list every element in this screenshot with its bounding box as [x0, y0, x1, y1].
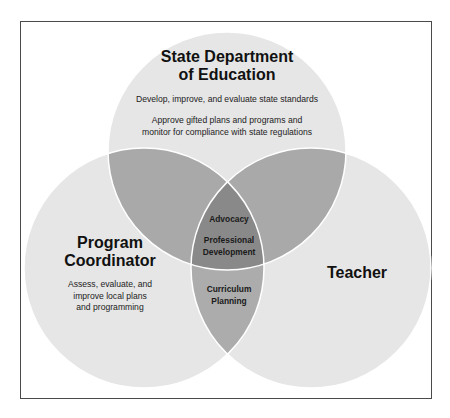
prof-dev-line1: Professional	[203, 235, 256, 247]
overlap-advocacy: Advocacy	[209, 214, 249, 226]
coordinator-title-line2: Coordinator	[64, 252, 156, 270]
curriculum-line1: Curriculum	[207, 284, 252, 296]
state-department-title: State Department of Education	[161, 48, 293, 84]
prof-dev-line2: Development	[203, 247, 256, 259]
overlap-curriculum-planning: Curriculum Planning	[207, 284, 252, 307]
state-item-approve-line1: Approve gifted plans and programs and	[142, 115, 312, 127]
coordinator-desc-line3: and programming	[68, 302, 152, 314]
coordinator-desc-line2: improve local plans	[68, 291, 152, 303]
coordinator-title-line1: Program	[64, 234, 156, 252]
coordinator-description: Assess, evaluate, and improve local plan…	[68, 279, 152, 314]
state-item-standards: Develop, improve, and evaluate state sta…	[136, 94, 318, 106]
state-item-approve: Approve gifted plans and programs and mo…	[142, 115, 312, 138]
coordinator-desc-line1: Assess, evaluate, and	[68, 279, 152, 291]
state-item-approve-line2: monitor for compliance with state regula…	[142, 127, 312, 139]
overlap-professional-development: Professional Development	[203, 235, 256, 258]
state-title-line2: of Education	[161, 66, 293, 84]
teacher-title: Teacher	[327, 264, 387, 282]
curriculum-line2: Planning	[207, 296, 252, 308]
state-title-line1: State Department	[161, 48, 293, 66]
program-coordinator-title: Program Coordinator	[64, 234, 156, 270]
